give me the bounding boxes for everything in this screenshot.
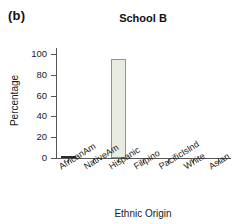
y-tick-label: 40	[36, 111, 47, 121]
y-tick-mark	[51, 158, 56, 159]
y-tick-label: 0	[42, 153, 47, 163]
y-tick-label: 80	[36, 70, 47, 80]
chart-title: School B	[56, 12, 230, 24]
y-tick-label: 100	[31, 49, 47, 59]
y-axis-title: Percentage	[9, 56, 20, 146]
y-tick-label: 20	[36, 132, 47, 142]
panel-label: (b)	[8, 8, 25, 23]
plot-area	[56, 48, 230, 158]
figure-panel-b: (b) School B 020406080100 AfricanAmNativ…	[0, 0, 236, 224]
y-tick-label: 60	[36, 91, 47, 101]
x-axis-title: Ethnic Origin	[56, 208, 230, 219]
